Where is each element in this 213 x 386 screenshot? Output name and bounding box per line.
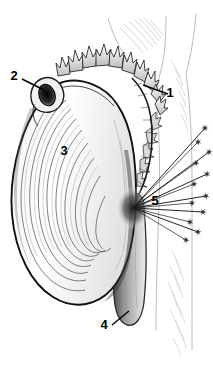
callout-label-3: 3 — [60, 143, 67, 158]
diagram-canvas: 1 2 3 4 5 — [0, 0, 213, 386]
callout-label-1: 1 — [166, 85, 173, 100]
mussel-anatomy-figure: 1 2 3 4 5 — [0, 0, 213, 386]
callout-label-4: 4 — [100, 317, 108, 332]
callout-label-2: 2 — [10, 68, 17, 83]
callout-label-5: 5 — [151, 193, 158, 208]
